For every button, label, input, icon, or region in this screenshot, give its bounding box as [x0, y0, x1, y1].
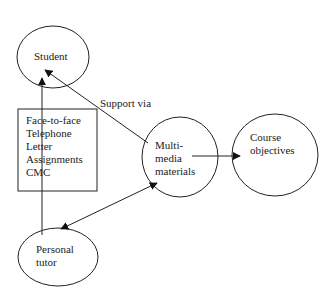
personal-tutor-node — [18, 228, 98, 286]
support-via-label: Support via — [100, 97, 151, 110]
multimedia-label-line-3: materials — [155, 165, 195, 178]
support-item: CMC — [26, 166, 83, 179]
tutor-label-line-1: Personal — [36, 243, 74, 256]
tutor-label-line-2: tutor — [36, 256, 57, 269]
support-item: Telephone — [26, 127, 83, 140]
student-label: Student — [34, 50, 68, 63]
multimedia-label-line-1: Multi- — [155, 139, 183, 152]
support-item: Face-to-face — [26, 114, 83, 127]
course-label-line-1: Course — [250, 131, 281, 144]
support-item: Letter — [26, 140, 83, 153]
support-item: Assignments — [26, 153, 83, 166]
course-label-line-2: objectives — [250, 144, 295, 157]
multimedia-label-line-2: media — [155, 152, 182, 165]
support-methods-list: Face-to-face Telephone Letter Assignment… — [26, 114, 83, 179]
edge-multimedia-tutor — [61, 183, 157, 229]
